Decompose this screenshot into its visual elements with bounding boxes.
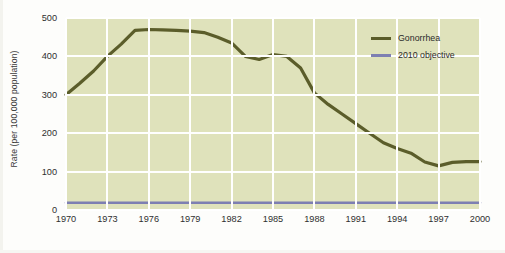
legend-swatch-icon (371, 37, 391, 40)
x-axis-tick-label: 1997 (428, 214, 448, 224)
legend-item[interactable]: 2010 objective (371, 50, 455, 60)
x-axis-tick-label: 1991 (346, 214, 366, 224)
x-axis-tick-label: 1988 (304, 214, 324, 224)
legend-swatch-icon (371, 54, 391, 57)
x-axis-tick-label: 1985 (263, 214, 283, 224)
gridline-vertical (65, 18, 67, 210)
x-axis-tick-label: 1982 (221, 214, 241, 224)
y-axis-tick-label: 100 (42, 167, 57, 177)
x-axis-tick-label: 1979 (180, 214, 200, 224)
legend-item-label: Gonorrhea (398, 33, 440, 43)
y-axis-tick-label: 300 (42, 90, 57, 100)
gridline-vertical (148, 18, 150, 210)
x-axis-tick-label: 1970 (56, 214, 76, 224)
gridline-vertical (313, 18, 315, 210)
y-axis-tick-label: 200 (42, 128, 57, 138)
gridline-vertical (231, 18, 233, 210)
x-axis-tick-label: 1994 (387, 214, 407, 224)
gridline-vertical (355, 18, 357, 210)
x-axis-tick-label: 1973 (97, 214, 117, 224)
gridline-vertical (479, 18, 481, 210)
x-axis-tick-label: 2000 (470, 214, 490, 224)
chart-container: Rate (per 100,000 population) 0100200300… (0, 0, 505, 253)
legend-item[interactable]: Gonorrhea (371, 33, 455, 43)
chart-legend: Gonorrhea2010 objective (371, 33, 455, 60)
gridline-vertical (106, 18, 108, 210)
y-axis-tick-label: 500 (42, 13, 57, 23)
gridline-vertical (272, 18, 274, 210)
legend-item-label: 2010 objective (398, 50, 455, 60)
x-axis-tick-label: 1976 (139, 214, 159, 224)
x-axis-tick-labels: 1970197319761979198219851988199119941997… (0, 214, 505, 238)
y-axis-tick-label: 400 (42, 51, 57, 61)
gridline-vertical (189, 18, 191, 210)
